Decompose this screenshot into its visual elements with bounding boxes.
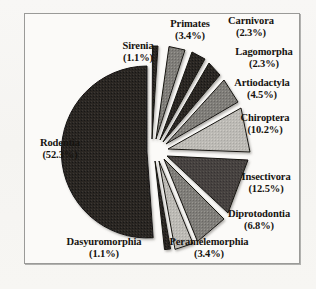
slice-label-insectivora-pct: (12.5%) [233,183,299,195]
slice-label-sirenia-name: Sirenia [122,40,153,51]
slice-label-lagomorpha-pct: (2.3%) [229,58,299,70]
slice-label-artiodactyla: Artiodactyla (4.5%) [225,77,299,100]
slice-label-primates-pct: (3.4%) [159,30,221,42]
slice-label-diprotodontia: Diprotodontia (6.8%) [221,208,297,231]
slice-label-chiroptera-name: Chiroptera [241,112,290,123]
slice-label-insectivora-name: Insectivora [241,171,290,182]
slice-label-dasyuromorphia: Dasyuromorphia (1.1%) [55,236,153,259]
slice-label-dasyuromorphia-pct: (1.1%) [55,248,153,260]
figure-frame: Primates (3.4%) Carnivora (2.3%) Sirenia… [24,13,300,264]
slice-label-carnivora: Carnivora (2.3%) [219,15,283,38]
slice-label-insectivora: Insectivora (12.5%) [233,171,299,194]
slice-label-diprotodontia-pct: (6.8%) [221,220,297,232]
slice-label-carnivora-pct: (2.3%) [219,27,283,39]
slice-label-primates: Primates (3.4%) [159,18,221,41]
slice-label-peramelemorphia-name: Peramelemorphia [170,236,249,247]
slice-label-dasyuromorphia-name: Dasyuromorphia [67,236,142,247]
slice-label-sirenia-pct: (1.1%) [108,52,168,64]
slice-label-chiroptera-pct: (10.2%) [231,124,299,136]
slice-label-peramelemorphia: Peramelemorphia (3.4%) [157,236,261,259]
slice-label-rodentia: Rodentia (52.3%) [29,137,91,160]
slice-label-peramelemorphia-pct: (3.4%) [157,248,261,260]
slice-label-lagomorpha: Lagomorpha (2.3%) [229,46,299,69]
slice-label-primates-name: Primates [170,18,209,29]
slice-label-chiroptera: Chiroptera (10.2%) [231,112,299,135]
slice-label-artiodactyla-name: Artiodactyla [234,77,289,88]
slice-label-diprotodontia-name: Diprotodontia [228,208,290,219]
slice-label-rodentia-pct: (52.3%) [29,149,91,161]
slice-label-lagomorpha-name: Lagomorpha [235,46,292,57]
pie-chart: Primates (3.4%) Carnivora (2.3%) Sirenia… [25,14,299,263]
slice-label-carnivora-name: Carnivora [228,15,274,26]
slice-label-rodentia-name: Rodentia [40,137,80,148]
slice-label-sirenia: Sirenia (1.1%) [108,40,168,63]
slice-label-artiodactyla-pct: (4.5%) [225,89,299,101]
